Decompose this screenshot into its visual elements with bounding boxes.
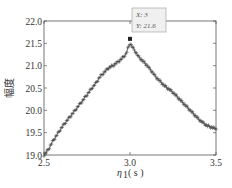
svg-text:( s ): ( s ) xyxy=(128,167,144,179)
data-tip-x: X: 3 xyxy=(135,11,148,19)
y-axis-label: 幅度 xyxy=(3,78,15,98)
y-tick-label: 21.0 xyxy=(25,61,42,71)
x-axis-label: η 1 ( s ) xyxy=(117,167,144,180)
svg-text:η: η xyxy=(117,167,122,178)
plot-area xyxy=(44,21,216,155)
y-tick-label: 21.5 xyxy=(25,39,42,49)
x-tick-label: 2.5 xyxy=(38,158,50,168)
x-tick-label: 3.5 xyxy=(210,158,222,168)
y-tick-label: 22.0 xyxy=(25,17,42,27)
y-tick-label: 19.5 xyxy=(25,128,42,138)
data-tip-marker xyxy=(128,37,132,41)
y-tick-label: 20.0 xyxy=(25,106,42,116)
data-tip-y: Y: 21.6 xyxy=(136,22,156,30)
y-tick-label: 20.5 xyxy=(25,84,42,94)
chart: 19.019.520.020.521.021.522.0 2.53.03.5 幅… xyxy=(0,0,232,188)
